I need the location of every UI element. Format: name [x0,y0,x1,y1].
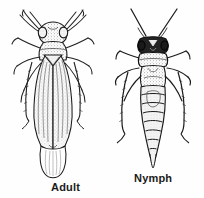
caption-adult: Adult [51,181,80,193]
adult-left-eye [38,27,46,38]
adult-insect-icon [12,10,94,178]
adult-right-wing [53,56,72,152]
caption-nymph: Nymph [134,172,172,184]
adult-right-eye [59,27,67,38]
adult-left-wing [34,56,53,152]
nymph-left-legs [116,51,141,101]
nymph-right-legs [165,51,190,101]
nymph-antennae [131,9,177,36]
insect-illustration-svg [0,0,204,198]
nymph-insect-icon [116,9,191,168]
nymph-abdomen [141,86,166,167]
illustration-figure: Adult Nymph [0,0,204,198]
